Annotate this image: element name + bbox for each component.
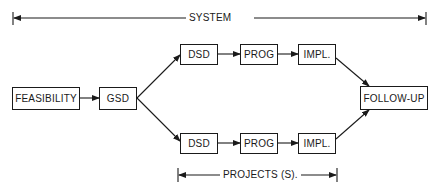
node-impl-bottom: IMPL. [298, 133, 336, 154]
system-span-label: SYSTEM [186, 12, 234, 24]
node-label: FOLLOW-UP [363, 93, 424, 104]
projects-span-label: PROJECTS (S). [220, 169, 301, 181]
node-impl-top: IMPL. [298, 44, 336, 65]
node-label: FEASIBILITY [15, 93, 77, 104]
edge-impl-bottom-followup [336, 110, 369, 139]
node-label: IMPL. [303, 49, 330, 60]
node-label: PROG [244, 138, 274, 149]
edge-gsd-dsd-top [137, 55, 180, 98]
node-label: GSD [107, 93, 129, 104]
node-label: PROG [244, 49, 274, 60]
node-dsd-top: DSD [180, 44, 218, 65]
edge-impl-top-followup [336, 58, 369, 86]
node-follow-up: FOLLOW-UP [360, 86, 428, 110]
node-prog-top: PROG [240, 44, 278, 65]
node-prog-bottom: PROG [240, 133, 278, 154]
node-label: DSD [188, 138, 210, 149]
node-label: DSD [188, 49, 210, 60]
edge-gsd-dsd-bottom [137, 98, 180, 141]
node-gsd: GSD [99, 87, 137, 110]
node-dsd-bottom: DSD [180, 133, 218, 154]
node-feasibility: FEASIBILITY [12, 87, 80, 110]
node-label: IMPL. [303, 138, 330, 149]
